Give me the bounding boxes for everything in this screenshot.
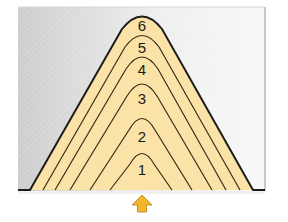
- up-arrow-icon: [132, 195, 152, 212]
- layer-label-5: 5: [138, 39, 146, 56]
- volcano-layers-diagram: 6 5 4 3 2 1: [0, 0, 288, 222]
- layer-label-1: 1: [138, 161, 146, 178]
- layer-label-3: 3: [138, 90, 146, 107]
- layer-label-6: 6: [138, 17, 146, 34]
- ground-strip: [18, 191, 265, 194]
- layer-label-4: 4: [138, 61, 146, 78]
- layer-label-2: 2: [138, 128, 146, 145]
